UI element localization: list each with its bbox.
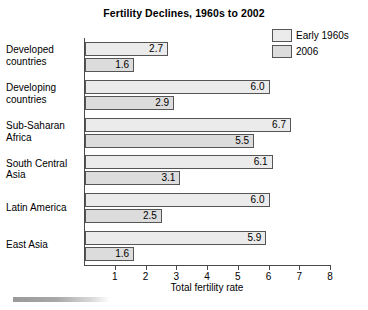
x-tick-label: 4 — [204, 271, 210, 282]
bar-value-label: 6.1 — [254, 157, 272, 167]
x-tick-label: 2 — [143, 271, 149, 282]
bar-value-label: 5.9 — [248, 233, 266, 243]
bar-value-label: 5.5 — [235, 136, 253, 146]
x-tick — [115, 265, 116, 270]
x-tick — [269, 265, 270, 270]
bar-value-label: 6.0 — [251, 82, 269, 92]
x-tick — [330, 265, 331, 270]
category-label-line: Sub-Saharan — [6, 120, 80, 132]
category-label-line: Africa — [6, 132, 80, 144]
bar-value-label: 6.0 — [251, 195, 269, 205]
x-tick — [238, 265, 239, 270]
bar-value-label: 3.1 — [161, 173, 179, 183]
x-tick-label: 5 — [235, 271, 241, 282]
category-label: Sub-SaharanAfrica — [6, 120, 80, 143]
category-label-line: Developed — [6, 44, 80, 56]
bar: 6.1 — [85, 155, 273, 169]
bar: 3.1 — [85, 171, 180, 185]
bottom-divider — [13, 297, 110, 302]
category-label: Developingcountries — [6, 82, 80, 105]
x-tick — [146, 265, 147, 270]
bar: 2.7 — [85, 42, 168, 56]
x-tick-label: 7 — [296, 271, 302, 282]
category-label: Latin America — [6, 202, 80, 214]
x-tick — [299, 265, 300, 270]
bar: 1.6 — [85, 58, 134, 72]
bar: 6.7 — [85, 118, 291, 132]
bar: 1.6 — [85, 247, 134, 261]
x-tick-label: 6 — [266, 271, 272, 282]
bar-value-label: 2.7 — [149, 44, 167, 54]
category-label: South CentralAsia — [6, 158, 80, 181]
bar-value-label: 2.9 — [155, 98, 173, 108]
bar: 5.9 — [85, 231, 266, 245]
category-label-line: East Asia — [6, 239, 80, 251]
x-tick — [207, 265, 208, 270]
chart-title: Fertility Declines, 1960s to 2002 — [0, 7, 368, 19]
category-label-line: countries — [6, 56, 80, 68]
category-label-line: South Central — [6, 158, 80, 170]
category-label-line: Latin America — [6, 202, 80, 214]
category-label-line: Developing — [6, 82, 80, 94]
category-label: East Asia — [6, 239, 80, 251]
bar: 2.9 — [85, 96, 174, 110]
fertility-bar-chart: Fertility Declines, 1960s to 2002 Early … — [0, 0, 368, 310]
bar-value-label: 1.6 — [115, 60, 133, 70]
x-axis-title: Total fertility rate — [84, 282, 330, 293]
category-label: Developedcountries — [6, 44, 80, 67]
x-tick-label: 3 — [173, 271, 179, 282]
bar-value-label: 2.5 — [143, 211, 161, 221]
plot-area: 12345678 2.71.66.02.96.75.56.13.16.02.55… — [84, 38, 330, 265]
category-label-line: countries — [6, 94, 80, 106]
x-tick — [176, 265, 177, 270]
x-tick-label: 8 — [327, 271, 333, 282]
x-tick-label: 1 — [112, 271, 118, 282]
bar: 6.0 — [85, 80, 270, 94]
bar: 2.5 — [85, 209, 162, 223]
bar: 6.0 — [85, 193, 270, 207]
bar-value-label: 6.7 — [272, 120, 290, 130]
bar: 5.5 — [85, 134, 254, 148]
bar-value-label: 1.6 — [115, 249, 133, 259]
category-label-line: Asia — [6, 169, 80, 181]
